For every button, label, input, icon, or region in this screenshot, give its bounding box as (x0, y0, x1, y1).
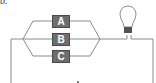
branch-a-right (69, 21, 100, 39)
circuit-wires (0, 0, 156, 83)
component-c: C (52, 50, 70, 63)
circuit-diagram: b. A B C (0, 0, 156, 83)
terminal-dot (77, 81, 79, 83)
light-bulb-icon (120, 6, 136, 33)
component-b: B (52, 33, 70, 46)
wire-from-bulb (131, 35, 153, 83)
left-wire (11, 39, 23, 83)
branch-a-left (23, 21, 52, 39)
component-a: A (52, 15, 70, 28)
branch-c-right (69, 39, 100, 56)
branch-c-left (23, 39, 52, 56)
wire-to-bulb (100, 35, 127, 39)
